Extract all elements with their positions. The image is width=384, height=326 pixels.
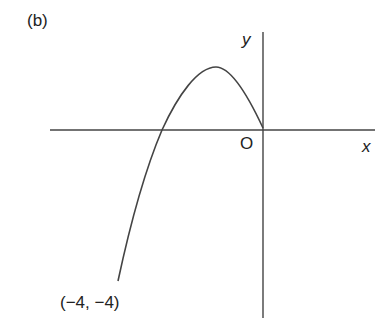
endpoint-label: (−4, −4) (60, 293, 120, 313)
origin-label: O (240, 134, 253, 154)
function-curve (118, 67, 263, 281)
panel-label: (b) (27, 11, 48, 31)
x-axis-label: x (362, 137, 371, 157)
y-axis-label: y (242, 30, 251, 50)
graph-canvas (0, 0, 384, 326)
